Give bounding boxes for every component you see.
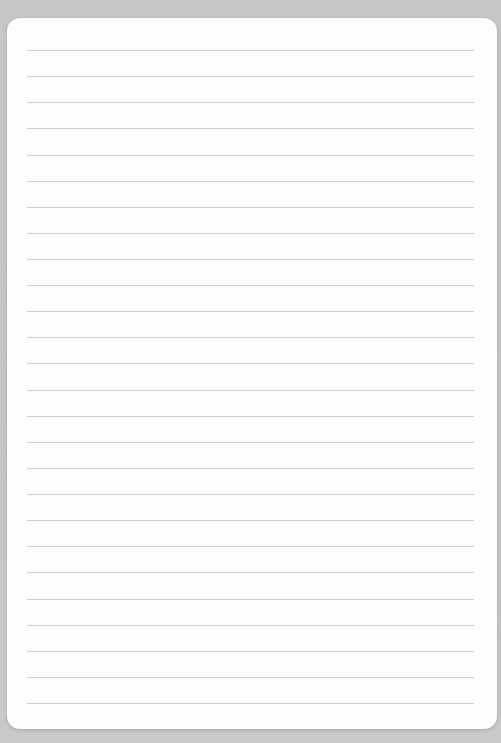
rule-line [27,102,474,103]
rule-line [27,651,474,652]
rule-line [27,599,474,600]
rule-line [27,468,474,469]
rule-line [27,311,474,312]
rule-line [27,233,474,234]
rule-line [27,625,474,626]
notebook-page[interactable] [7,18,497,729]
rule-line [27,703,474,704]
rule-line [27,363,474,364]
rule-line [27,546,474,547]
rule-line [27,520,474,521]
rule-line [27,285,474,286]
rule-line [27,337,474,338]
rule-line [27,494,474,495]
rule-line [27,207,474,208]
rule-line [27,181,474,182]
rule-line [27,50,474,51]
rule-line [27,677,474,678]
rule-line [27,572,474,573]
rule-line [27,442,474,443]
rule-line [27,155,474,156]
rule-line [27,259,474,260]
ruled-lines-area [7,18,497,729]
rule-line [27,390,474,391]
rule-line [27,76,474,77]
rule-line [27,416,474,417]
rule-line [27,128,474,129]
